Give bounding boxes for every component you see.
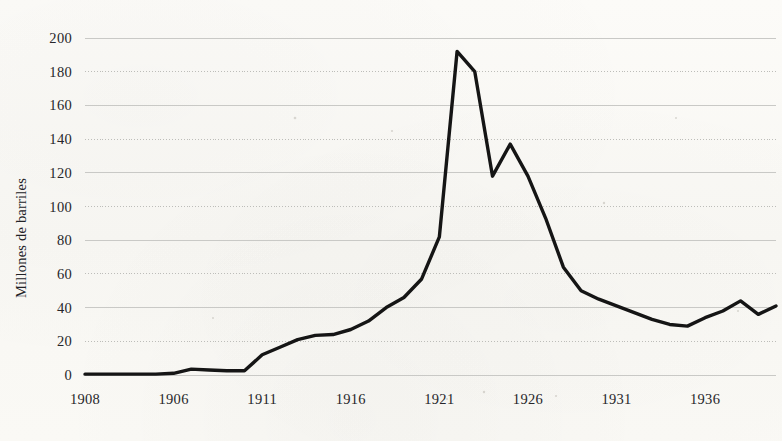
x-tick-label-1911: 1911	[247, 391, 277, 407]
y-tick-label-40: 40	[57, 300, 72, 316]
y-tick-label-20: 20	[57, 333, 72, 349]
data-line-millones-de-barriles	[85, 51, 776, 374]
x-tick-label-1936: 1936	[690, 391, 720, 407]
x-tick-label-1926: 1926	[513, 391, 543, 407]
x-tick-label-1908: 1908	[70, 391, 100, 407]
x-axis-tick-labels: 19081906191119161921192619311936	[70, 391, 720, 407]
y-axis-title-text: Millones de barriles	[13, 178, 29, 298]
y-tick-label-180: 180	[49, 64, 72, 80]
y-tick-label-0: 0	[64, 367, 72, 383]
y-tick-label-80: 80	[57, 232, 72, 248]
y-tick-label-100: 100	[49, 199, 72, 215]
y-tick-label-140: 140	[49, 131, 72, 147]
paper-specks	[60, 117, 739, 400]
y-tick-label-200: 200	[49, 30, 72, 46]
x-tick-label-1916: 1916	[336, 391, 366, 407]
x-tick-label-1906: 1906	[158, 391, 188, 407]
data-series-group	[85, 51, 776, 374]
y-tick-label-60: 60	[57, 266, 72, 282]
x-tick-label-1921: 1921	[424, 391, 454, 407]
y-axis-tick-labels: 020406080100120140160180200	[49, 30, 72, 383]
chart-svg: 020406080100120140160180200 190819061911…	[0, 0, 782, 441]
chart-figure: 020406080100120140160180200 190819061911…	[0, 0, 782, 441]
y-tick-label-160: 160	[49, 97, 72, 113]
x-tick-label-1931: 1931	[601, 391, 631, 407]
y-axis-title: Millones de barriles	[13, 178, 29, 298]
